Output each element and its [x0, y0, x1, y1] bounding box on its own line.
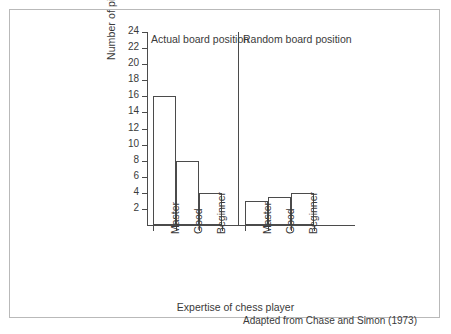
category-label: Master: [169, 202, 181, 234]
y-tick-mark: [142, 64, 147, 65]
y-tick-label: 18: [128, 73, 139, 84]
category-label: Good: [284, 208, 296, 234]
x-tick-mark: [245, 226, 246, 231]
y-tick-label: 8: [133, 154, 139, 165]
y-tick-label: 22: [128, 41, 139, 52]
plot-area: 24681012141618202224 Actual board positi…: [147, 32, 355, 226]
x-tick-mark: [153, 226, 154, 231]
y-tick-mark: [142, 161, 147, 162]
y-tick-mark: [142, 145, 147, 146]
y-tick-mark: [142, 193, 147, 194]
category-label: Good: [192, 208, 204, 234]
y-axis-title: Number of pieces correctly placed: [105, 0, 119, 60]
figure-frame: Number of pieces correctly placed 246810…: [9, 9, 440, 318]
panel-divider: [238, 32, 239, 225]
y-tick-label: 6: [133, 170, 139, 181]
y-tick-mark: [142, 48, 147, 49]
y-tick-label: 12: [128, 122, 139, 133]
panel-label-random: Random board position: [243, 33, 352, 45]
y-tick-label: 4: [133, 186, 139, 197]
y-tick-mark: [142, 32, 147, 33]
y-axis-line: [147, 32, 148, 226]
category-label: Beginner: [215, 192, 227, 234]
y-tick-label: 20: [128, 57, 139, 68]
y-tick-label: 10: [128, 138, 139, 149]
y-tick-label: 16: [128, 89, 139, 100]
y-tick-mark: [142, 209, 147, 210]
source-attribution: Adapted from Chase and Simon (1973): [243, 315, 417, 326]
category-label: Beginner: [307, 192, 319, 234]
y-tick-mark: [142, 177, 147, 178]
panel-label-actual: Actual board position: [151, 33, 249, 45]
y-tick-mark: [142, 112, 147, 113]
y-tick-mark: [142, 96, 147, 97]
y-tick-label: 14: [128, 105, 139, 116]
y-tick-mark: [142, 80, 147, 81]
x-axis-title: Expertise of chess player: [10, 301, 451, 313]
category-label: Master: [261, 202, 273, 234]
y-tick-label: 2: [133, 202, 139, 213]
y-tick-mark: [142, 129, 147, 130]
y-tick-label: 24: [128, 25, 139, 36]
